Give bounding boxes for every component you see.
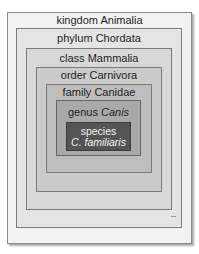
corner-mark: [171, 216, 176, 217]
species-name-label: C. familiaris: [67, 136, 130, 148]
genus-label: genus Canis: [57, 106, 140, 119]
taxon-name: Mammalia: [88, 52, 139, 64]
taxon-name: Canis: [101, 106, 129, 118]
rank-text: class: [60, 52, 85, 64]
phylum-label: phylum Chordata: [17, 32, 181, 45]
taxon-name: Animalia: [100, 14, 142, 26]
order-label: order Carnivora: [37, 69, 161, 82]
taxon-name: Carnivora: [90, 69, 138, 81]
kingdom-label: kingdom Animalia: [8, 14, 191, 27]
rank-text: order: [61, 69, 87, 81]
rank-text: kingdom: [56, 14, 98, 26]
rank-text: family: [63, 86, 92, 98]
class-label: class Mammalia: [27, 52, 171, 65]
rank-text: phylum: [57, 32, 92, 44]
taxon-name: Canidae: [94, 86, 135, 98]
family-label: family Canidae: [47, 86, 151, 99]
species-box: species C. familiaris: [66, 122, 131, 151]
taxon-name: Chordata: [96, 32, 141, 44]
rank-text: genus: [68, 106, 98, 118]
